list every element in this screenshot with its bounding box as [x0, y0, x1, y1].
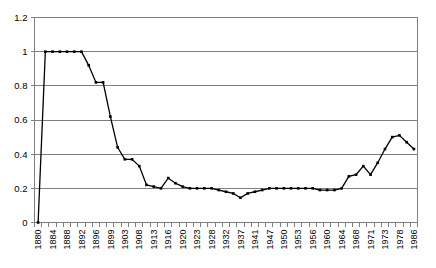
- x-tick-label: 1960: [322, 230, 332, 250]
- data-point-marker: [80, 50, 83, 53]
- data-point-marker: [196, 187, 199, 190]
- data-point-marker: [37, 221, 40, 224]
- data-point-marker: [87, 64, 90, 67]
- data-point-marker: [152, 185, 155, 188]
- x-tick-label: 1947: [265, 230, 275, 250]
- data-point-marker: [174, 182, 177, 185]
- x-tick-label: 1884: [48, 230, 58, 250]
- data-point-marker: [58, 50, 61, 53]
- x-tick-label: 1896: [91, 230, 101, 250]
- data-point-marker: [304, 187, 307, 190]
- data-point-marker: [73, 50, 76, 53]
- data-point-marker: [369, 173, 372, 176]
- y-tick-label: 0.6: [14, 114, 27, 125]
- data-point-marker: [51, 50, 54, 53]
- data-point-marker: [138, 165, 141, 168]
- x-tick-label: 1932: [221, 230, 231, 250]
- data-point-marker: [189, 187, 192, 190]
- x-tick-label: 1923: [192, 230, 202, 250]
- y-tick-label: 0.8: [14, 80, 27, 91]
- y-tick-label: 0.2: [14, 183, 27, 194]
- x-tick-label: 1892: [77, 230, 87, 250]
- x-tick-label: 1903: [120, 230, 130, 250]
- x-tick-label: 1880: [33, 230, 43, 250]
- data-point-marker: [290, 187, 293, 190]
- data-point-marker: [413, 148, 416, 151]
- data-point-marker: [66, 50, 69, 53]
- y-tick-label: 1: [22, 46, 27, 57]
- x-tick-label: 1937: [236, 230, 246, 250]
- data-point-marker: [225, 190, 228, 193]
- x-tick-label: 1964: [337, 230, 347, 250]
- x-tick-label: 1971: [366, 230, 376, 250]
- x-tick-label: 1973: [380, 230, 390, 250]
- data-point-marker: [340, 187, 343, 190]
- data-point-marker: [297, 187, 300, 190]
- data-point-marker: [116, 146, 119, 149]
- data-point-marker: [109, 115, 112, 118]
- data-point-marker: [311, 187, 314, 190]
- x-tick-label: 1928: [207, 230, 217, 250]
- data-point-marker: [210, 187, 213, 190]
- x-tick-label: 1888: [62, 230, 72, 250]
- x-tick-label: 1913: [149, 230, 159, 250]
- data-point-marker: [275, 187, 278, 190]
- data-point-marker: [384, 148, 387, 151]
- y-axis-tick-labels: 00.20.40.60.811.2: [14, 12, 27, 228]
- data-point-marker: [181, 185, 184, 188]
- data-point-marker: [254, 190, 257, 193]
- x-tick-label: 1950: [279, 230, 289, 250]
- data-point-marker: [333, 189, 336, 192]
- x-tick-label: 1968: [351, 230, 361, 250]
- line-chart: 00.20.40.60.811.2 1880188418881892189618…: [0, 0, 436, 268]
- x-tick-label: 1908: [134, 230, 144, 250]
- data-point-marker: [319, 189, 322, 192]
- data-point-marker: [405, 141, 408, 144]
- data-point-marker: [203, 187, 206, 190]
- data-point-marker: [160, 187, 163, 190]
- data-point-marker: [167, 177, 170, 180]
- data-point-marker: [124, 158, 127, 161]
- data-point-marker: [44, 50, 47, 53]
- x-tick-label: 1986: [409, 230, 419, 250]
- y-tick-label: 1.2: [14, 12, 27, 23]
- data-point-marker: [232, 192, 235, 195]
- data-point-marker: [355, 173, 358, 176]
- data-point-marker: [268, 187, 271, 190]
- x-tick-label: 1920: [178, 230, 188, 250]
- data-point-marker: [131, 158, 134, 161]
- x-tick-label: 1953: [293, 230, 303, 250]
- data-point-marker: [145, 184, 148, 187]
- data-point-marker: [391, 136, 394, 139]
- y-tick-label: 0.4: [14, 149, 27, 160]
- y-tick-label: 0: [22, 217, 27, 228]
- x-tick-label: 1978: [395, 230, 405, 250]
- x-tick-label: 1941: [250, 230, 260, 250]
- data-point-marker: [376, 161, 379, 164]
- x-tick-label: 1916: [163, 230, 173, 250]
- data-point-marker: [362, 165, 365, 168]
- x-tick-label: 1956: [308, 230, 318, 250]
- x-tick-label: 1899: [106, 230, 116, 250]
- data-point-marker: [326, 189, 329, 192]
- x-axis-tick-labels: 1880188418881892189618991903190819131916…: [33, 230, 419, 250]
- data-point-marker: [95, 81, 98, 84]
- y-axis: [31, 18, 35, 223]
- data-point-marker: [239, 196, 242, 199]
- data-point-marker: [246, 192, 249, 195]
- data-point-marker: [283, 187, 286, 190]
- data-point-marker: [217, 189, 220, 192]
- data-point-marker: [261, 189, 264, 192]
- chart-container: 00.20.40.60.811.2 1880188418881892189618…: [0, 0, 436, 268]
- data-point-marker: [348, 175, 351, 178]
- data-point-marker: [102, 81, 105, 84]
- data-point-marker: [398, 134, 401, 137]
